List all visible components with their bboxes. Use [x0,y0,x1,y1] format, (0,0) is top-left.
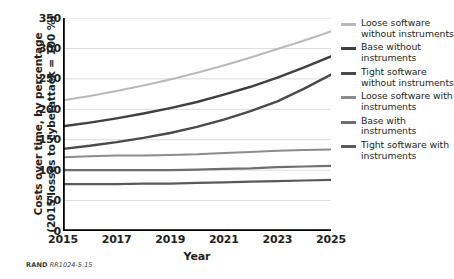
legend-item[interactable]: Tight software with instruments [341,140,454,161]
legend-label: Loose software without instruments [361,18,454,39]
series-line-3 [63,149,331,157]
legend-line-swatch-icon [341,47,356,50]
series-line-0 [63,31,331,100]
axis-lines [63,18,331,231]
series-line-1 [63,56,331,126]
x-tick-label: 2021 [204,234,244,245]
legend-item[interactable]: Loose software without instruments [341,18,454,39]
legend-line-swatch-icon [341,145,356,148]
x-axis-title: Year [63,250,331,263]
legend-item[interactable]: Tight software without instruments [341,67,454,88]
legend-line-swatch-icon [341,72,356,75]
series-lines [63,31,331,184]
legend-label: Base with instruments [361,116,454,137]
legend-label: Loose software with instruments [361,91,454,112]
rand-logo-text: RAND [26,261,48,269]
y-axis-tick-labels: 050100150200250300350 [30,0,61,245]
legend-line-swatch-icon [341,23,356,26]
legend-line-swatch-icon [341,96,356,99]
series-line-2 [63,75,331,149]
series-line-5 [63,180,331,184]
y-tick-label: 150 [31,134,61,145]
report-id: RR1024-5.15 [50,261,93,269]
x-tick-label: 2017 [97,234,137,245]
legend-item[interactable]: Base without instruments [341,42,454,63]
plot-svg [63,18,331,231]
legend-label: Tight software with instruments [361,140,454,161]
legend-line-swatch-icon [341,121,356,124]
y-tick-label: 100 [31,165,61,176]
x-axis-tick-labels: 201520172019202120232025 [0,234,454,250]
chart-legend: Loose software without instrumentsBase w… [341,18,454,164]
series-line-4 [63,166,331,170]
x-tick-label: 2015 [43,234,83,245]
chart-figure: Costs over time, by percentage (2015 los… [0,0,454,279]
y-tick-label: 50 [31,195,61,206]
y-tick-label: 200 [31,104,61,115]
y-tick-label: 350 [31,13,61,24]
legend-label: Tight software without instruments [361,67,454,88]
legend-label: Base without instruments [361,42,454,63]
y-tick-label: 250 [31,73,61,84]
legend-item[interactable]: Base with instruments [341,116,454,137]
legend-item[interactable]: Loose software with instruments [341,91,454,112]
x-tick-label: 2023 [257,234,297,245]
source-note: RAND RR1024-5.15 [26,261,93,269]
y-tick-label: 300 [31,43,61,54]
x-tick-label: 2019 [150,234,190,245]
plot-area [63,18,331,231]
x-tick-label: 2025 [311,234,351,245]
